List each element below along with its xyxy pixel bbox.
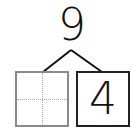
part-left-value	[17, 73, 67, 125]
part-box-right: 4	[76, 71, 130, 127]
part-right-value: 4	[78, 73, 128, 125]
part-box-left-empty[interactable]	[15, 71, 69, 127]
